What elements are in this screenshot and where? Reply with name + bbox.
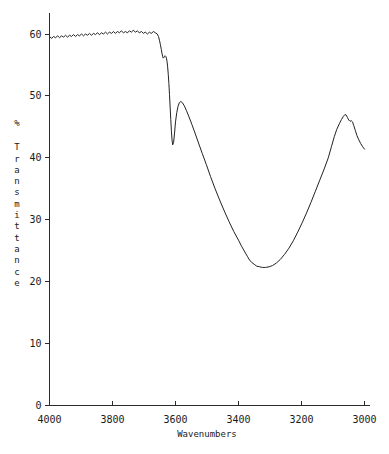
y-tick-group: 0102030405060 <box>29 29 50 412</box>
y-tick-label-0: 0 <box>35 400 41 411</box>
y-axis-title: %Transmittance <box>10 118 24 289</box>
y-axis-title-char-0: % <box>10 118 24 129</box>
x-tick-label-3000: 3000 <box>352 414 376 425</box>
x-tick-label-3200: 3200 <box>289 414 313 425</box>
x-tick-group: 400038003600340032003000 <box>37 401 376 425</box>
y-axis-title-char-14: e <box>10 278 24 289</box>
spectrum-plot: 0102030405060 400038003600340032003000 W… <box>0 0 389 454</box>
y-tick-label-20: 20 <box>29 276 41 287</box>
y-axis-title-char-8: i <box>10 210 24 221</box>
y-axis-title-char-11: a <box>10 244 24 255</box>
y-axis-title-char-5: n <box>10 176 24 187</box>
x-tick-label-4000: 4000 <box>37 414 61 425</box>
y-axis-title-char-10: t <box>10 233 24 244</box>
y-tick-label-60: 60 <box>29 29 41 40</box>
x-tick-label-3600: 3600 <box>163 414 187 425</box>
y-tick-label-50: 50 <box>29 90 41 101</box>
y-axis-title-char-6: s <box>10 187 24 198</box>
y-axis-title-char-9: t <box>10 221 24 232</box>
y-axis-title-char-13: c <box>10 267 24 278</box>
x-axis-title: Wavenumbers <box>177 429 237 439</box>
y-axis-title-char-4: a <box>10 165 24 176</box>
x-tick-label-3800: 3800 <box>100 414 124 425</box>
y-axis-title-char-3: r <box>10 154 24 165</box>
y-tick-label-30: 30 <box>29 214 41 225</box>
x-tick-label-3400: 3400 <box>226 414 250 425</box>
chart-container: 0102030405060 400038003600340032003000 W… <box>0 0 389 454</box>
y-axis-title-char-7: m <box>10 199 24 210</box>
y-tick-label-10: 10 <box>29 338 41 349</box>
y-tick-label-40: 40 <box>29 152 41 163</box>
y-axis-title-gap <box>10 129 24 142</box>
y-axis-title-char-12: n <box>10 255 24 266</box>
spectrum-trace <box>50 30 365 267</box>
y-axis-title-char-2: T <box>10 142 24 153</box>
